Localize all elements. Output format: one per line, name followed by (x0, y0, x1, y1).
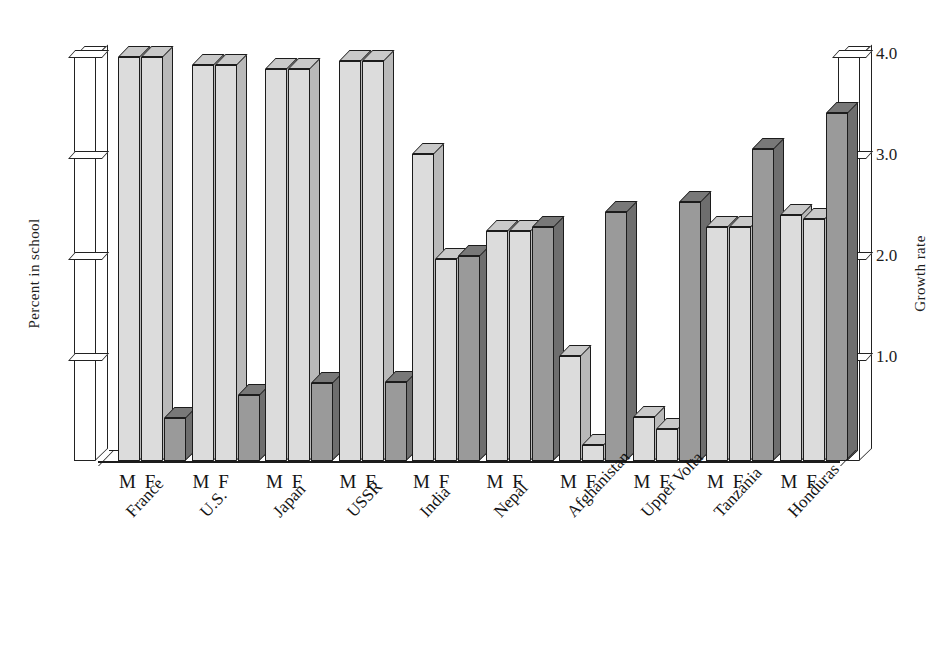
bar-face (803, 219, 825, 461)
bar-upper-volta-growth-rate (679, 202, 701, 461)
bar-side (162, 46, 173, 461)
right-axis-tick-label-2.0: 2.0 (876, 246, 922, 266)
left-axis-tick-100 (68, 50, 109, 58)
bar-face (509, 231, 531, 461)
bar-honduras-growth-rate (826, 113, 848, 461)
right-axis-tick-label-4.0: 4.0 (876, 44, 922, 64)
bar-side (847, 102, 858, 461)
right-axis-tick-label-3.0: 3.0 (876, 145, 922, 165)
bar-face (656, 429, 678, 461)
bar-face (288, 69, 310, 461)
bar-u-s--male-percent-in-school (192, 65, 214, 461)
bar-france-male-percent-in-school (118, 57, 140, 461)
bar-face (339, 61, 361, 461)
left-axis-title: Percent in school (26, 164, 43, 384)
right-axis-tick-label-1.0: 1.0 (876, 347, 922, 367)
bar-face (486, 231, 508, 461)
bar-honduras-male-percent-in-school (780, 215, 802, 461)
bar-face (679, 202, 701, 461)
bar-tanzania-female-percent-in-school (729, 227, 751, 461)
bar-tanzania-growth-rate (752, 149, 774, 461)
bar-face (435, 259, 457, 461)
bar-face (633, 417, 655, 461)
bar-afghanistan-growth-rate (605, 212, 627, 461)
bar-face (458, 256, 480, 461)
bar-face (164, 418, 186, 461)
chart-canvas: Percent in school Growth rate 255075100 … (0, 0, 942, 649)
bar-face (215, 65, 237, 461)
bar-afghanistan-male-percent-in-school (559, 356, 581, 461)
bar-face (311, 383, 333, 461)
bar-nepal-female-percent-in-school (509, 231, 531, 461)
bar-france-female-percent-in-school (141, 57, 163, 461)
bar-japan-growth-rate (311, 383, 333, 461)
bar-upper-volta-male-percent-in-school (633, 417, 655, 461)
bar-tanzania-male-percent-in-school (706, 227, 728, 461)
left-axis-tick-25 (68, 353, 109, 361)
bar-face (729, 227, 751, 461)
right-axis-tick-4.0 (832, 50, 873, 58)
bar-face (265, 69, 287, 461)
bar-ussr-growth-rate (385, 382, 407, 461)
bar-france-growth-rate (164, 418, 186, 461)
bar-face (582, 445, 604, 461)
bar-face (826, 113, 848, 461)
bar-face (192, 65, 214, 461)
bar-face (559, 356, 581, 461)
bar-face (238, 395, 260, 461)
bar-u-s--growth-rate (238, 395, 260, 461)
bar-face (752, 149, 774, 461)
bar-afghanistan-female-percent-in-school (582, 445, 604, 461)
bar-honduras-female-percent-in-school (803, 219, 825, 461)
bar-india-male-percent-in-school (412, 154, 434, 461)
bar-ussr-male-percent-in-school (339, 61, 361, 461)
plot-floor-front-edge (98, 461, 840, 463)
bar-india-female-percent-in-school (435, 259, 457, 461)
bar-india-growth-rate (458, 256, 480, 461)
bar-u-s--female-percent-in-school (215, 65, 237, 461)
bar-face (412, 154, 434, 461)
bar-face (118, 57, 140, 461)
bar-japan-male-percent-in-school (265, 69, 287, 461)
bar-nepal-growth-rate (532, 227, 554, 461)
bar-face (385, 382, 407, 461)
bar-face (605, 212, 627, 461)
bar-ussr-female-percent-in-school (362, 61, 384, 461)
bar-face (706, 227, 728, 461)
bar-face (532, 227, 554, 461)
bar-japan-female-percent-in-school (288, 69, 310, 461)
bar-face (141, 57, 163, 461)
left-axis-tick-50 (68, 252, 109, 260)
bar-face (780, 215, 802, 461)
left-axis-tick-75 (68, 151, 109, 159)
bar-nepal-male-percent-in-school (486, 231, 508, 461)
bar-face (362, 61, 384, 461)
bar-upper-volta-female-percent-in-school (656, 429, 678, 461)
